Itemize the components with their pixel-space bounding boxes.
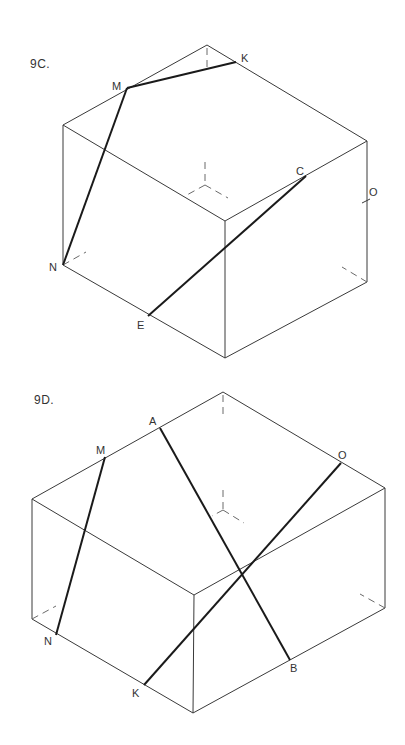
- line-m-k: [127, 62, 236, 88]
- cube-hidden-edges: [63, 48, 367, 282]
- hidden-edge-right: [205, 185, 228, 198]
- prism-visible-edges: [32, 392, 385, 713]
- section-lines-9c: [63, 62, 370, 316]
- figure-title-9d: 9D.: [34, 393, 54, 407]
- cube-visible-edges: [63, 45, 367, 358]
- hidden-edge-bottom-right: [360, 594, 385, 608]
- point-label-n: N: [49, 261, 57, 273]
- point-label-o: O: [369, 186, 378, 198]
- figure-9d: 9D. A M O N K B: [32, 392, 385, 713]
- point-labels-9d: A M O N K B: [44, 415, 347, 699]
- diagram-canvas: 9C. M K N E C: [0, 0, 405, 745]
- point-label-o: O: [338, 449, 347, 461]
- cube-top-face: [63, 45, 367, 221]
- point-label-m: M: [96, 444, 105, 456]
- prism-top-face: [32, 392, 385, 595]
- point-labels-9c: M K N E C O: [49, 52, 378, 331]
- prism-hidden-edges: [32, 395, 385, 619]
- hidden-edge-left: [185, 185, 205, 196]
- line-a-b: [160, 428, 290, 660]
- line-m-n: [56, 457, 105, 635]
- hidden-edge-right: [223, 510, 244, 523]
- point-label-n: N: [44, 635, 52, 647]
- point-label-k: K: [241, 52, 249, 64]
- prism-bottom-right-edge: [193, 608, 385, 713]
- prism-front-edge: [193, 595, 194, 713]
- line-k-o: [144, 463, 341, 685]
- hidden-edge-bottom-right: [342, 267, 367, 282]
- point-o-tick: [362, 199, 370, 203]
- figure-9c: 9C. M K N E C: [30, 45, 378, 358]
- figure-title-9c: 9C.: [30, 57, 50, 71]
- point-label-e: E: [137, 319, 144, 331]
- section-lines-9d: [56, 428, 341, 685]
- point-label-b: B: [290, 662, 297, 674]
- point-label-m: M: [112, 80, 121, 92]
- point-label-a: A: [149, 415, 157, 427]
- cube-bottom-left-edge: [63, 265, 225, 358]
- line-m-n: [63, 88, 127, 265]
- cube-bottom-right-edge: [225, 282, 367, 358]
- hidden-edge-bottom-left: [32, 606, 56, 619]
- hidden-edge-left: [212, 510, 223, 516]
- point-label-k: K: [132, 687, 140, 699]
- point-label-c: C: [296, 165, 304, 177]
